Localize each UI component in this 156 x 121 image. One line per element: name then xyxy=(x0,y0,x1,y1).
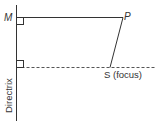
parabola-focus-directrix-diagram: M P S (focus) Directrix xyxy=(0,0,156,121)
segment-ps xyxy=(110,18,123,68)
label-s-focus: S (focus) xyxy=(104,69,142,80)
label-directrix: Directrix xyxy=(3,78,14,113)
right-angle-mark-axis xyxy=(17,61,24,68)
label-p: P xyxy=(124,11,131,22)
label-m: M xyxy=(4,12,13,23)
right-angle-mark-m xyxy=(17,18,24,25)
